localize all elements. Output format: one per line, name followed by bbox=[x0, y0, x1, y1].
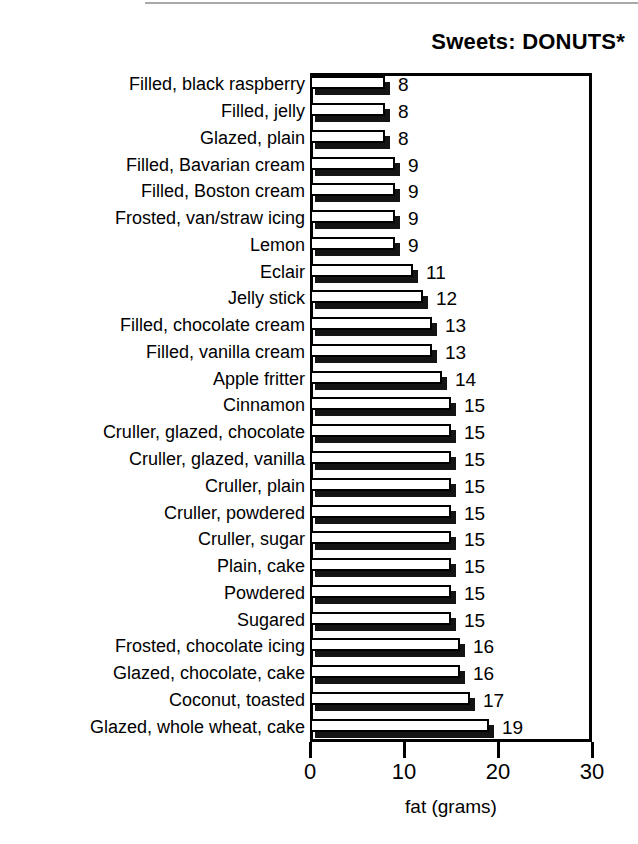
x-tick-label: 30 bbox=[562, 760, 622, 784]
x-tick-mark bbox=[403, 742, 406, 758]
chart-page: Sweets: DONUTS* Filled, black raspberry8… bbox=[0, 0, 638, 844]
x-tick-label: 10 bbox=[374, 760, 434, 784]
x-tick-mark bbox=[309, 742, 312, 758]
x-tick-label: 20 bbox=[468, 760, 528, 784]
x-axis: fat (grams) 0102030 bbox=[0, 0, 638, 844]
x-tick-mark bbox=[591, 742, 594, 758]
x-axis-title: fat (grams) bbox=[310, 796, 592, 818]
x-tick-label: 0 bbox=[280, 760, 340, 784]
x-tick-mark bbox=[497, 742, 500, 758]
